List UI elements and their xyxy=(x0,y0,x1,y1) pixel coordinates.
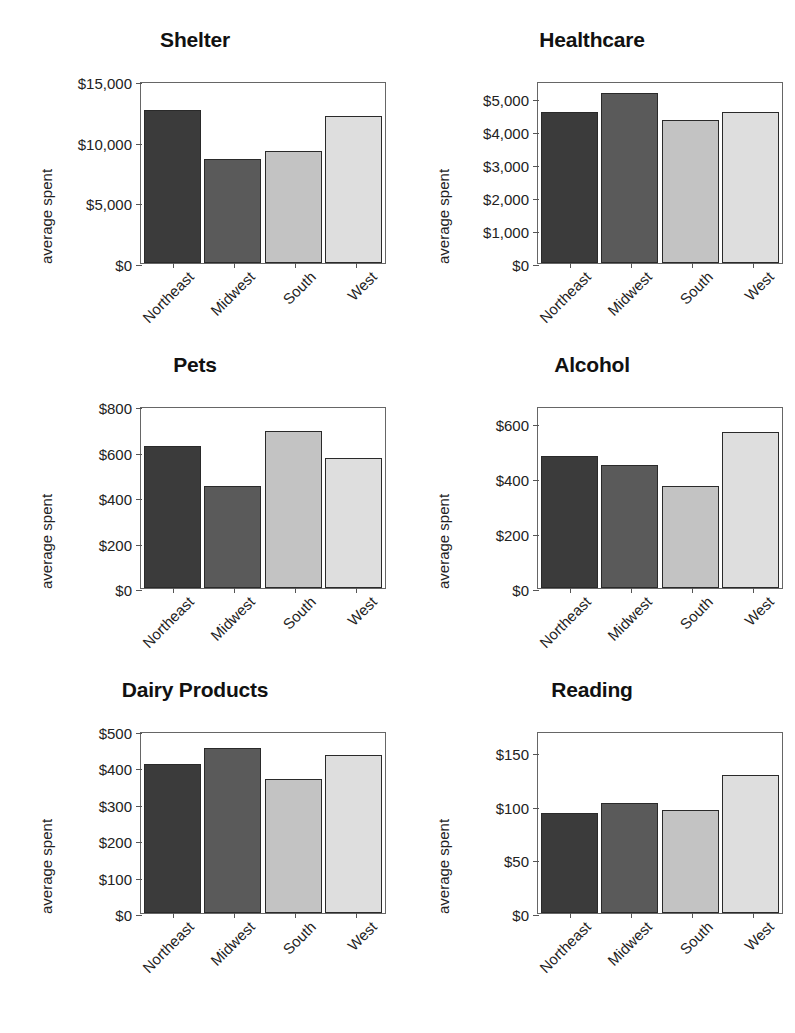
bar-midwest[interactable] xyxy=(204,748,261,913)
plot-area: $0$5,000$10,000$15,000NortheastMidwestSo… xyxy=(140,82,386,264)
chart-panel-dairy-products: Dairy Productsaverage spent$0$100$200$30… xyxy=(0,650,397,975)
y-tick-label: $100 xyxy=(496,800,538,815)
x-tick-label: West xyxy=(741,918,777,954)
x-tick-mark xyxy=(753,263,754,268)
x-tick-label: South xyxy=(676,593,716,633)
bar-group xyxy=(141,408,385,588)
bar-group xyxy=(141,733,385,913)
y-tick-label: $150 xyxy=(496,747,538,762)
chart-title: Reading xyxy=(397,678,787,702)
y-tick-label: $4,000 xyxy=(483,125,538,140)
chart-panel-pets: Petsaverage spent$0$200$400$600$800North… xyxy=(0,325,397,650)
y-tick-label: $15,000 xyxy=(78,76,141,91)
bar-northeast[interactable] xyxy=(541,813,598,913)
y-tick-label: $100 xyxy=(99,871,141,886)
x-tick-label: West xyxy=(741,268,777,304)
x-tick-mark xyxy=(173,263,174,268)
y-tick-label: $2,000 xyxy=(483,191,538,206)
y-tick-label: $600 xyxy=(99,446,141,461)
y-tick-label: $400 xyxy=(99,492,141,507)
y-axis-label: average spent xyxy=(38,819,55,914)
x-tick-label: South xyxy=(279,593,319,633)
y-tick-label: $400 xyxy=(496,472,538,487)
x-tick-label: South xyxy=(279,268,319,308)
bar-south[interactable] xyxy=(265,431,322,588)
plot-area: $0$200$400$600$800NortheastMidwestSouthW… xyxy=(140,407,386,589)
chart-panel-healthcare: Healthcareaverage spent$0$1,000$2,000$3,… xyxy=(397,0,794,325)
figure-panel-grid: Shelteraverage spent$0$5,000$10,000$15,0… xyxy=(0,0,795,1033)
y-tick-label: $300 xyxy=(99,798,141,813)
bar-midwest[interactable] xyxy=(601,465,658,588)
y-tick-mark xyxy=(533,915,539,916)
x-tick-label: Midwest xyxy=(604,593,655,644)
y-tick-label: $200 xyxy=(99,835,141,850)
x-tick-mark xyxy=(692,263,693,268)
x-tick-mark xyxy=(570,263,571,268)
plot-area: $0$100$200$300$400$500NortheastMidwestSo… xyxy=(140,732,386,914)
chart-title: Healthcare xyxy=(397,28,787,52)
bar-west[interactable] xyxy=(325,116,382,263)
y-axis-label: average spent xyxy=(38,494,55,589)
bar-northeast[interactable] xyxy=(541,456,598,588)
x-tick-label: Midwest xyxy=(604,268,655,319)
bar-northeast[interactable] xyxy=(144,110,201,263)
bar-west[interactable] xyxy=(325,458,382,588)
y-tick-label: $200 xyxy=(99,537,141,552)
bar-midwest[interactable] xyxy=(601,803,658,913)
x-tick-mark xyxy=(234,588,235,593)
y-tick-mark xyxy=(533,590,539,591)
bar-west[interactable] xyxy=(325,755,382,913)
bar-group xyxy=(538,408,782,588)
bar-group xyxy=(538,733,782,913)
chart-panel-reading: Readingaverage spent$0$50$100$150Northea… xyxy=(397,650,794,975)
x-tick-label: South xyxy=(676,918,716,958)
bar-northeast[interactable] xyxy=(144,764,201,913)
y-tick-mark xyxy=(136,590,142,591)
chart-title: Shelter xyxy=(0,28,390,52)
x-tick-label: Midwest xyxy=(207,268,258,319)
bar-south[interactable] xyxy=(265,151,322,263)
bar-south[interactable] xyxy=(662,486,719,588)
x-tick-label: Midwest xyxy=(207,918,258,969)
y-axis-label: average spent xyxy=(435,169,452,264)
x-tick-mark xyxy=(753,913,754,918)
y-tick-label: $800 xyxy=(99,401,141,416)
x-tick-label: Midwest xyxy=(604,918,655,969)
chart-title: Alcohol xyxy=(397,353,787,377)
bar-midwest[interactable] xyxy=(204,159,261,263)
x-tick-mark xyxy=(234,913,235,918)
bar-midwest[interactable] xyxy=(601,93,658,263)
plot-area: $0$1,000$2,000$3,000$4,000$5,000Northeas… xyxy=(537,82,783,264)
y-tick-label: $600 xyxy=(496,417,538,432)
x-tick-mark xyxy=(570,588,571,593)
x-tick-mark xyxy=(631,263,632,268)
x-tick-mark xyxy=(173,913,174,918)
x-tick-label: Northeast xyxy=(139,268,197,326)
bar-west[interactable] xyxy=(722,775,779,913)
bar-group xyxy=(538,83,782,263)
chart-panel-alcohol: Alcoholaverage spent$0$200$400$600Northe… xyxy=(397,325,794,650)
x-tick-mark xyxy=(295,263,296,268)
x-tick-mark xyxy=(356,588,357,593)
bar-west[interactable] xyxy=(722,432,779,588)
bar-west[interactable] xyxy=(722,112,779,263)
x-tick-label: Northeast xyxy=(536,918,594,976)
x-tick-label: Northeast xyxy=(536,268,594,326)
y-axis-label: average spent xyxy=(435,494,452,589)
y-tick-label: $500 xyxy=(99,726,141,741)
x-tick-label: Northeast xyxy=(139,918,197,976)
bar-south[interactable] xyxy=(662,120,719,263)
y-tick-label: $5,000 xyxy=(483,92,538,107)
plot-area: $0$50$100$150NortheastMidwestSouthWest xyxy=(537,732,783,914)
bar-south[interactable] xyxy=(265,779,322,913)
y-tick-label: $3,000 xyxy=(483,158,538,173)
bar-northeast[interactable] xyxy=(144,446,201,588)
x-tick-mark xyxy=(631,913,632,918)
bar-south[interactable] xyxy=(662,810,719,913)
y-tick-label: $200 xyxy=(496,527,538,542)
x-tick-mark xyxy=(570,913,571,918)
bar-midwest[interactable] xyxy=(204,486,261,588)
x-tick-label: West xyxy=(344,593,380,629)
bar-northeast[interactable] xyxy=(541,112,598,263)
x-tick-label: West xyxy=(344,918,380,954)
